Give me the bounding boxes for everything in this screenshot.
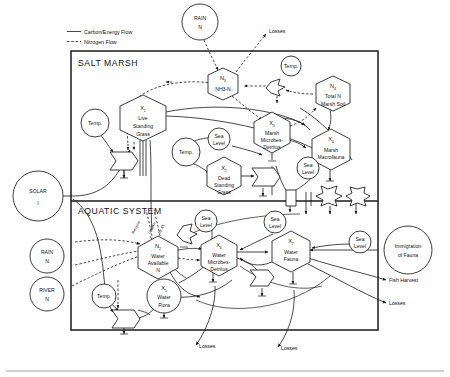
diagram-canvas: Carbon/Energy Flow Nitrogen Flow SALT MA… <box>0 0 450 377</box>
x3-line1: Marsh <box>265 130 279 136</box>
sea-level-line1: Sea <box>270 216 279 222</box>
annotation-recycle: Recycle <box>130 220 141 235</box>
boundary-gates <box>286 186 370 206</box>
sea-level-line2: Level <box>269 223 281 229</box>
sea-level-line2: Level <box>302 169 314 175</box>
x5-line2: Flora <box>158 302 170 308</box>
sea-level-line2: Level <box>354 243 366 249</box>
temp-label: Temp. <box>97 293 111 299</box>
x3-line2: Microbes- <box>261 137 284 143</box>
n2-line1: Water <box>151 253 165 259</box>
rain-top-line1: RAIN <box>194 15 206 21</box>
forcing-temp-n3: Temp. <box>281 56 301 76</box>
sea-level-line1: Sea <box>303 162 312 168</box>
sink-losses-top: Losses <box>269 28 286 34</box>
nitrogen-flow-links <box>72 34 316 312</box>
temp-label: Temp. <box>284 63 298 69</box>
node-n4: N4 Total N Marsh Soil <box>316 76 350 111</box>
river-left-line1: RIVER <box>39 287 55 293</box>
forcing-sea-level-aquatic-1: Sea Level <box>195 210 217 232</box>
node-x5: X5 Water Flora <box>147 279 181 313</box>
node-x7: X7 Water Fauna <box>272 231 310 272</box>
sea-level-line2: Level <box>200 222 212 228</box>
solar-line2: I <box>37 200 38 206</box>
forcing-sea-level-marsh-1: Sea Level <box>208 128 230 150</box>
x2-line2: Standing <box>214 182 234 188</box>
forcing-sea-level-aquatic-2: Sea Level <box>264 211 286 233</box>
solar-line1: SOLAR <box>29 188 47 194</box>
rain-left-line2: N <box>45 258 49 264</box>
x1-line2: Standing <box>133 123 153 129</box>
sink-losses-bottom-left: Losses <box>199 343 216 349</box>
n4-line1: Total N <box>325 93 341 99</box>
sea-level-line1: Sea <box>214 133 223 139</box>
legend-carbon-label: Carbon/Energy Flow <box>84 29 132 35</box>
x6-line2: Microbes- <box>208 259 231 265</box>
x4-line2: Macrofauna <box>318 154 345 160</box>
node-x2: X2 Dead Standing Grass <box>207 157 241 195</box>
source-rain-top: RAIN N <box>182 4 218 40</box>
node-n2: N2 Water Available N <box>138 236 178 279</box>
source-rain-left: RAIN N <box>30 239 64 273</box>
sea-level-line1: Sea <box>355 236 364 242</box>
source-river-left: RIVER N <box>30 277 64 311</box>
x5-line1: Water <box>157 294 171 300</box>
workgate-aquatic-3 <box>112 310 140 328</box>
forcing-temp-x1: Temp. <box>81 109 109 137</box>
boundary-star-1 <box>316 186 342 206</box>
workgate-aquatic-2 <box>250 270 274 286</box>
node-n3: N3 NH3-N <box>208 68 238 100</box>
aquatic-system-label: AQUATIC SYSTEM <box>78 206 162 216</box>
ecosystem-energy-flow-diagram: Carbon/Energy Flow Nitrogen Flow SALT MA… <box>0 0 450 377</box>
n2-line3: N <box>156 267 160 273</box>
source-immigration: Immigration of Fauna <box>384 226 432 274</box>
boundary-star-2 <box>346 187 370 206</box>
x4-line1: Marsh <box>324 147 338 153</box>
legend-nitrogen-label: Nitrogen Flow <box>84 39 117 45</box>
boundary-bullet-1 <box>286 190 296 206</box>
x3-line3: Detritus <box>263 144 281 150</box>
n3-label: NH3-N <box>215 86 231 92</box>
x6-line1: Water <box>212 252 226 258</box>
n4-line2: Marsh Soil <box>321 101 345 107</box>
workgate-n3 <box>266 79 285 96</box>
x2-line3: Grass <box>217 189 231 195</box>
sink-fish-harvest: Fish Harvest <box>389 277 419 283</box>
workgate-aquatic-1 <box>177 224 197 244</box>
x7-line1: Water <box>284 249 298 255</box>
sink-losses-right: Losses <box>389 300 406 306</box>
sea-level-line1: Sea <box>201 215 210 221</box>
immigration-line2: of Fauna <box>398 252 418 258</box>
x1-line1: Live <box>138 115 148 121</box>
forcing-sea-level-aquatic-3: Sea Level <box>349 231 371 253</box>
legend: Carbon/Energy Flow Nitrogen Flow <box>67 29 132 45</box>
temp-label: Temp. <box>179 149 193 155</box>
rain-left-line1: RAIN <box>41 249 53 255</box>
annotation-uptake-by: by X5 <box>156 223 165 234</box>
x6-line3: Detritus <box>210 266 228 272</box>
salt-marsh-label: SALT MARSH <box>78 58 138 68</box>
sea-level-line2: Level <box>213 140 225 146</box>
rain-top-line2: N <box>198 24 202 30</box>
node-x1: X1 Live Standing Grass <box>120 95 166 141</box>
source-solar: SOLAR I <box>13 171 63 221</box>
forcing-temp-aquatic: Temp. <box>92 284 116 308</box>
sink-losses-bottom-right: Losses <box>281 345 298 351</box>
x1-line3: Grass <box>136 131 150 137</box>
temp-label: Temp. <box>88 120 102 126</box>
x2-line1: Dead <box>218 175 230 181</box>
forcing-temp-x2: Temp. <box>172 138 200 166</box>
forcing-sea-level-marsh-2: Sea Level <box>297 157 319 179</box>
n2-line2: Available <box>148 260 169 266</box>
annotation-uptake: Uptake <box>146 221 156 234</box>
x7-line2: Fauna <box>284 256 299 262</box>
node-x6: X6 Water Microbes- Detritus <box>201 235 237 276</box>
workgate-x2 <box>252 168 280 186</box>
river-left-line2: N <box>45 296 49 302</box>
workgate-x1 <box>110 152 138 170</box>
immigration-line1: Immigration <box>395 243 422 249</box>
